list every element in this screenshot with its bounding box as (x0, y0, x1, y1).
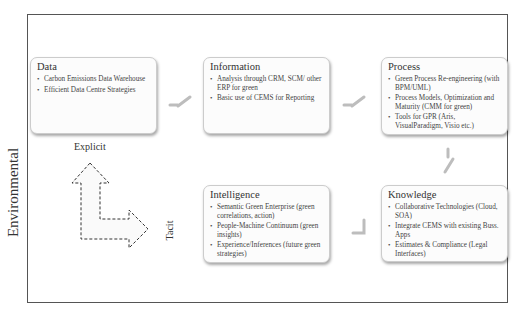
box-knowledge-title: Knowledge (388, 189, 501, 201)
connector-knowledge-intelligence (350, 217, 370, 239)
box-data: Data Carbon Emissions Data Warehouse Eff… (30, 57, 157, 134)
box-information: Information Analysis through CRM, SCM/ o… (203, 57, 330, 134)
box-knowledge-item: Estimates & Compliance (Legal Interfaces… (388, 241, 501, 258)
box-intelligence-item: People-Machine Continuum (green insights… (210, 222, 323, 239)
box-information-item: Analysis through CRM, SCM/ other ERP for… (210, 75, 323, 92)
connector-process-knowledge (440, 146, 460, 176)
box-data-title: Data (37, 61, 150, 73)
box-knowledge-item: Collaborative Technologies (Cloud, SOA) (388, 203, 501, 220)
box-intelligence-item: Experience/Inferences (future green stra… (210, 241, 323, 258)
box-data-item: Efficient Data Centre Strategies (37, 86, 150, 95)
box-process-item: Tools for GPR (Aris, VisualParadigm, Vis… (388, 113, 501, 130)
tacit-label: Tacit (160, 220, 180, 240)
environmental-label-text: Environmental (6, 147, 23, 236)
explicit-tacit-arrow-icon (65, 158, 160, 256)
box-process-title: Process (388, 61, 501, 73)
environmental-label: Environmental (4, 182, 24, 202)
box-intelligence-item: Semantic Green Enterprise (green correla… (210, 203, 323, 220)
box-information-title: Information (210, 61, 323, 73)
box-intelligence: Intelligence Semantic Green Enterprise (… (203, 185, 330, 263)
box-information-item: Basic use of CEMS for Reporting (210, 94, 323, 103)
box-knowledge: Knowledge Collaborative Technologies (Cl… (381, 185, 508, 262)
box-data-item: Carbon Emissions Data Warehouse (37, 75, 150, 84)
box-knowledge-item: Integrate CEMS with existing Buss. Apps (388, 222, 501, 239)
box-process: Process Green Process Re-engineering (wi… (381, 57, 508, 135)
tacit-label-text: Tacit (165, 220, 176, 240)
connector-information-process (342, 94, 368, 110)
box-process-item: Process Models, Optimization and Maturit… (388, 94, 501, 111)
connector-data-information (168, 94, 194, 110)
box-intelligence-title: Intelligence (210, 189, 323, 201)
explicit-label: Explicit (74, 141, 106, 152)
box-process-item: Green Process Re-engineering (with BPM/U… (388, 75, 501, 92)
